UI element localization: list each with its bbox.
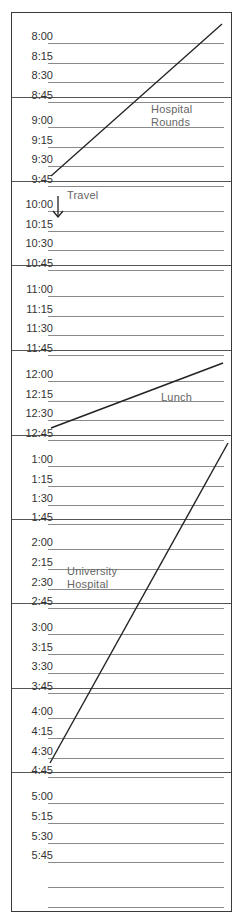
time-slot[interactable]: 8:00 [12,26,231,46]
entry-line [48,758,224,759]
entry-line [48,887,224,888]
entry-line [48,634,224,635]
time-slot[interactable]: 10:00 [12,194,231,214]
time-label: 1:00 [32,453,53,465]
time-slot[interactable]: 12:00 [12,364,231,384]
time-label: 5:00 [32,790,53,802]
entry-line [48,231,224,232]
entry-label: Travel [67,189,98,202]
time-slot[interactable]: 11:30 [12,318,231,338]
time-label: 12:15 [25,388,53,400]
time-label: 4:00 [32,705,53,717]
time-label: 11:15 [26,303,53,315]
entry-lunch[interactable]: Lunch [161,391,192,404]
entry-line [48,466,224,467]
time-label: 2:15 [32,556,53,568]
time-slot[interactable]: 5:15 [12,806,231,826]
entry-label: University [67,565,117,578]
time-slot[interactable]: 9:15 [12,130,231,150]
entry-line [48,316,224,317]
entry-university-hospital[interactable]: University Hospital [67,565,117,591]
time-label: 5:45 [32,849,53,861]
time-label: 9:00 [32,114,53,126]
time-slot[interactable]: 11:15 [12,299,231,319]
time-slot[interactable]: 4:00 [12,701,231,721]
time-label: 10:30 [25,237,53,249]
entry-line [48,147,224,148]
hour-section-9: 9:00 9:15 9:30 9:45 [12,98,231,182]
time-slot[interactable]: 2:00 [12,532,231,552]
entry-line [48,401,224,402]
hour-section-11: 11:00 11:15 11:30 11:45 [12,266,231,351]
time-slot[interactable]: 3:15 [12,637,231,657]
time-slot[interactable]: 10:30 [12,233,231,253]
time-label: 9:30 [32,153,53,165]
entry-line [48,63,224,64]
time-label: 1:30 [32,492,53,504]
time-label: 8:30 [32,69,53,81]
hour-section-12: 12:00 12:15 12:30 12:45 [12,351,231,436]
time-slot[interactable]: 5:00 [12,786,231,806]
time-slot[interactable]: 5:30 [12,826,231,846]
time-slot[interactable]: 3:00 [12,617,231,637]
entry-label: Lunch [161,391,192,404]
time-slot[interactable]: 1:30 [12,488,231,508]
entry-line [48,823,224,824]
time-label: 3:00 [32,621,53,633]
time-label: 12:00 [25,368,53,380]
entry-label: Hospital [67,578,117,591]
time-label: 1:15 [32,473,53,485]
time-slot[interactable]: 8:30 [12,65,231,85]
entry-line [48,505,224,506]
time-slot[interactable]: 9:30 [12,149,231,169]
entry-line [48,335,224,336]
hour-section-2: 2:00 2:15 2:30 2:45 [12,520,231,604]
entry-line [48,843,224,844]
entry-line [48,211,224,212]
entry-line [48,549,224,550]
entry-hospital-rounds[interactable]: Hospital Rounds [151,103,192,129]
entry-line [48,673,224,674]
time-slot[interactable]: 4:15 [12,721,231,741]
time-slot[interactable]: 2:30 [12,572,231,592]
entry-line [48,486,224,487]
time-label: 2:30 [32,576,53,588]
time-slot[interactable]: 4:30 [12,741,231,761]
entry-line [48,862,224,863]
entry-line [48,803,224,804]
day-planner: 8:00 8:15 8:30 8:45 9:00 9:15 9:30 9:45 … [11,12,232,912]
time-label: 12:30 [25,407,53,419]
time-slot-blank[interactable] [12,870,231,890]
entry-line [48,166,224,167]
time-slot[interactable]: 8:15 [12,46,231,66]
entry-line [48,718,224,719]
entry-line [48,43,224,44]
time-slot[interactable]: 12:15 [12,384,231,404]
entry-line [48,82,224,83]
time-slot[interactable]: 1:15 [12,469,231,489]
time-label: 5:15 [32,810,53,822]
entry-line [48,907,224,908]
time-slot[interactable]: 5:45 [12,845,231,865]
time-label: 11:00 [26,283,53,295]
entry-label: Hospital [151,103,192,116]
time-slot[interactable]: 11:00 [12,279,231,299]
time-label: 5:30 [32,830,53,842]
hour-section-10: 10:00 10:15 10:30 10:45 [12,182,231,266]
time-slot[interactable]: 10:15 [12,214,231,234]
time-label: 4:30 [32,745,53,757]
time-slot[interactable]: 3:30 [12,656,231,676]
time-label: 8:00 [32,30,53,42]
entry-travel[interactable]: Travel [67,189,98,202]
time-slot-blank[interactable] [12,890,231,910]
entry-label: Rounds [151,116,192,129]
entry-line [48,250,224,251]
hour-section-4: 4:00 4:15 4:30 4:45 [12,689,231,773]
time-label: 4:15 [32,725,53,737]
time-slot[interactable]: 1:00 [12,449,231,469]
time-slot[interactable]: 12:30 [12,403,231,423]
time-label: 8:15 [32,50,53,62]
time-slot[interactable]: 2:15 [12,552,231,572]
time-slot[interactable]: 9:00 [12,110,231,130]
time-label: 10:00 [25,198,53,210]
